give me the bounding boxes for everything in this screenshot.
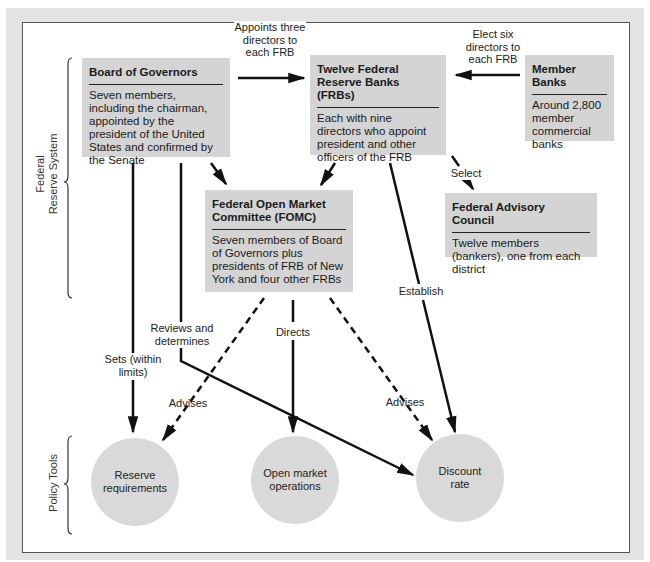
fomc-box: Federal Open Market Committee (FOMC) Sev… — [205, 190, 353, 292]
advisory-title: Federal Advisory Council — [452, 201, 590, 233]
advises-left-line — [163, 298, 264, 440]
establish-line-top — [390, 163, 419, 284]
frb-title: Twelve Federal Reserve Banks (FRBs) — [317, 63, 439, 108]
elect-label: Elect six directors to each FRB — [462, 28, 524, 66]
advises-right-line — [330, 298, 432, 440]
establish-label: Establish — [398, 285, 444, 298]
member-banks-box: Member Banks Around 2,800 member commerc… — [525, 55, 614, 141]
member-banks-body: Around 2,800 member commercial banks — [532, 99, 607, 151]
board-of-governors-box: Board of Governors Seven members, includ… — [82, 58, 230, 157]
frb-fomc-line — [321, 163, 335, 185]
federal-reserve-banks-box: Twelve Federal Reserve Banks (FRBs) Each… — [310, 55, 446, 155]
appoints-label: Appoints three directors to each FRB — [234, 21, 306, 59]
advisory-body: Twelve members (bankers), one from each … — [452, 237, 590, 276]
federal-reserve-system-label: Federal Reserve System — [34, 124, 62, 224]
board-body: Seven members, including the chairman, a… — [89, 89, 223, 167]
reserve-requirements-circle: Reserve requirements — [91, 438, 179, 526]
reserve-requirements-label: Reserve requirements — [100, 469, 170, 495]
policy-tools-brace — [64, 436, 72, 534]
sets-label: Sets (within limits) — [104, 353, 162, 378]
fomc-title: Federal Open Market Committee (FOMC) — [212, 198, 346, 230]
select-label: Select — [449, 167, 483, 180]
open-market-operations-label: Open market operations — [259, 467, 331, 493]
fomc-body: Seven members of Board of Governors plus… — [212, 234, 346, 286]
federal-reserve-brace — [64, 58, 72, 298]
frb-body: Each with nine directors who appoint pre… — [317, 112, 439, 164]
member-banks-title: Member Banks — [532, 63, 607, 95]
select-line-bottom — [467, 180, 473, 189]
directs-label: Directs — [274, 326, 312, 339]
policy-tools-text: Policy Tools — [47, 454, 59, 512]
discount-rate-circle: Discount rate — [416, 434, 504, 522]
reviews-label: Reviews and determines — [150, 322, 214, 347]
discount-rate-label: Discount rate — [435, 465, 485, 491]
policy-tools-label: Policy Tools — [47, 433, 61, 533]
select-line-top — [452, 156, 459, 166]
advises-right-label: Advises — [385, 396, 425, 409]
federal-advisory-council-box: Federal Advisory Council Twelve members … — [445, 193, 597, 257]
establish-line-bottom — [423, 300, 455, 432]
board-title: Board of Governors — [89, 66, 223, 85]
advises-left-label: Advises — [168, 397, 208, 410]
open-market-operations-circle: Open market operations — [251, 436, 339, 524]
federal-reserve-label-line1: Federal — [34, 124, 47, 224]
federal-reserve-label-line2: Reserve System — [47, 124, 60, 224]
